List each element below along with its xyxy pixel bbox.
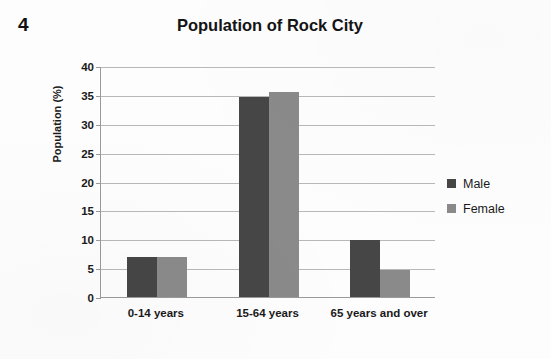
x-axis-tick-label: 65 years and over xyxy=(323,307,435,319)
y-axis-tick xyxy=(96,269,101,270)
legend-label: Male xyxy=(463,177,490,191)
legend-swatch-icon xyxy=(447,179,456,188)
y-axis-tick xyxy=(96,240,101,241)
question-number: 4 xyxy=(18,14,29,36)
y-axis-tick xyxy=(96,298,101,299)
bar-group xyxy=(127,67,187,297)
legend-swatch-icon xyxy=(447,204,456,213)
y-axis-tick-label: 35 xyxy=(64,90,94,102)
bar-male-2 xyxy=(239,97,269,297)
bar-group xyxy=(350,67,410,297)
bar-female-3 xyxy=(380,270,410,297)
y-axis-tick xyxy=(96,125,101,126)
y-axis-tick xyxy=(96,211,101,212)
bar-chart-figure: 4 Population of Rock City Population (%)… xyxy=(0,0,551,359)
chart-legend: MaleFemale xyxy=(447,171,543,221)
y-axis-tick-labels: 4035302520151050 xyxy=(62,67,94,298)
bar-male-1 xyxy=(127,257,157,297)
legend-label: Female xyxy=(463,202,505,216)
y-axis-tick-label: 5 xyxy=(64,263,94,275)
legend-item-male: Male xyxy=(447,171,543,196)
y-axis-tick-label: 15 xyxy=(64,205,94,217)
y-axis-tick-label: 10 xyxy=(64,234,94,246)
bar-male-3 xyxy=(350,240,380,297)
legend-item-female: Female xyxy=(447,196,543,221)
x-axis-tick-label: 0-14 years xyxy=(100,307,212,319)
y-axis-tick-label: 0 xyxy=(64,292,94,304)
y-axis-tick-label: 20 xyxy=(64,177,94,189)
bar-female-1 xyxy=(157,257,187,297)
y-axis-tick xyxy=(96,96,101,97)
plot-area xyxy=(100,67,435,298)
y-axis-tick xyxy=(96,183,101,184)
y-axis-tick-label: 30 xyxy=(64,119,94,131)
x-axis-tick-label: 15-64 years xyxy=(212,307,324,319)
bar-group xyxy=(239,67,299,297)
y-axis-tick-label: 40 xyxy=(64,61,94,73)
y-axis-tick xyxy=(96,154,101,155)
chart-title: Population of Rock City xyxy=(100,16,440,35)
y-axis-tick-label: 25 xyxy=(64,148,94,160)
y-axis-tick xyxy=(96,67,101,68)
bar-female-2 xyxy=(269,92,299,297)
